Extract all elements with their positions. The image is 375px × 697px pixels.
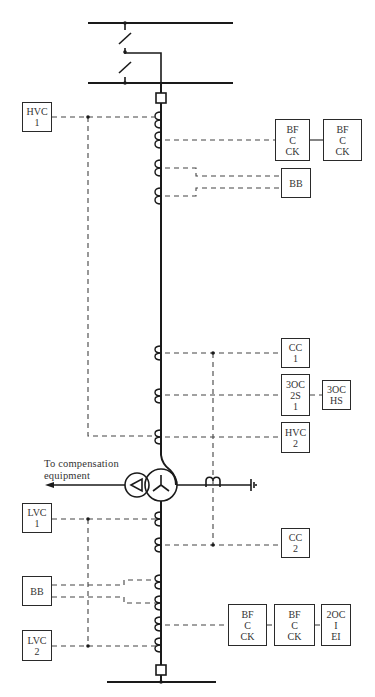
relay-box-label: 2 — [293, 438, 298, 449]
circuit-breaker-hv — [156, 93, 166, 103]
relay-box-label: CK — [241, 631, 255, 642]
relay-box-label: BB — [289, 178, 302, 189]
relay-box-bfcck-top-2: BFCCK — [323, 119, 362, 161]
annotation-line2: equipment — [44, 470, 90, 482]
relay-box-bfcck-bot-2: BFCCK — [274, 604, 315, 646]
relay-box-label: 1 — [293, 353, 298, 364]
relay-box-bfcck-bot-1: BFCCK — [228, 604, 267, 646]
relay-box-3oc-hs: 3OCHS — [322, 380, 351, 410]
relay-box-hvc2: HVC2 — [281, 422, 310, 453]
relay-box-label: EI — [331, 631, 340, 642]
relay-box-label: BF — [336, 124, 348, 135]
relay-box-bb-bottom: BB — [22, 576, 52, 606]
relay-box-label: 1 — [293, 401, 298, 412]
relay-box-label: 1 — [35, 518, 40, 529]
relay-box-label: 2 — [35, 646, 40, 657]
relay-box-label: CC — [289, 532, 302, 543]
relay-box-label: CK — [286, 146, 300, 157]
relay-box-label: C — [289, 135, 296, 146]
relay-box-label: CC — [289, 342, 302, 353]
relay-box-lvc2: LVC2 — [22, 630, 52, 661]
relay-box-cc2: CC2 — [281, 528, 310, 558]
disconnect-switch-1 — [119, 33, 131, 44]
relay-box-label: C — [339, 135, 346, 146]
relay-box-label: 2OC — [327, 609, 346, 620]
relay-box-3oc-2s-1: 3OC2S1 — [281, 374, 310, 416]
relay-box-label: C — [244, 620, 251, 631]
relay-box-bfcck-top-1: BFCCK — [275, 119, 310, 161]
relay-box-label: LVC — [27, 635, 46, 646]
relay-box-label: BF — [286, 124, 298, 135]
relay-box-label: CK — [288, 631, 302, 642]
relay-box-cc1: CC1 — [281, 338, 310, 368]
relay-box-label: C — [291, 620, 298, 631]
relay-box-label: 2 — [293, 543, 298, 554]
relay-box-label: 2S — [290, 390, 301, 401]
disconnect-switch-2 — [119, 62, 131, 73]
relay-box-label: HVC — [285, 427, 306, 438]
delta-icon — [131, 479, 142, 491]
relay-box-label: HS — [330, 395, 343, 406]
relay-box-label: BF — [288, 609, 300, 620]
relay-box-label: LVC — [27, 507, 46, 518]
arrow-left-icon — [45, 482, 54, 488]
single-line-diagram — [0, 0, 375, 697]
relay-box-hvc1: HVC1 — [22, 102, 52, 132]
relay-box-label: CK — [336, 146, 350, 157]
relay-box-label: 1 — [35, 117, 40, 128]
circuit-breaker-lv — [156, 665, 166, 675]
relay-box-label: BF — [241, 609, 253, 620]
star-icon — [153, 475, 169, 491]
relay-box-label: 3OC — [286, 379, 305, 390]
relay-box-label: BB — [30, 586, 43, 597]
relay-box-lvc1: LVC1 — [22, 503, 52, 533]
relay-box-label: I — [334, 620, 337, 631]
relay-box-2oc-i-ei: 2OCIEI — [321, 604, 351, 646]
relay-box-label: 3OC — [327, 384, 346, 395]
annotation-line1: To compensation — [44, 458, 119, 470]
relay-box-bb-top: BB — [281, 168, 311, 198]
relay-box-label: HVC — [26, 106, 47, 117]
